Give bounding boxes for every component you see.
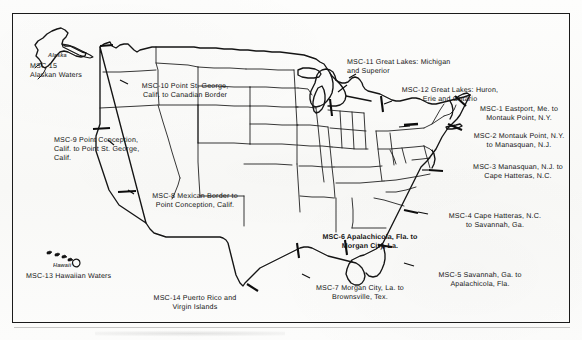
label-msc-7-morgan-city-brownsville: MSC-7 Morgan City, La. to Brownsville, T… <box>296 284 424 302</box>
label-msc-1-eastport-montauk: MSC-1 Eastport, Me. to Montauk Point, N.… <box>460 105 578 123</box>
label-msc-15-alaskan-waters: MSC-15 Alaskan Waters <box>30 62 82 80</box>
hawaii-inset-label: Hawaii <box>53 262 71 268</box>
label-msc-4-hatteras-savannah: MSC-4 Cape Hatteras, N.C. to Savannah, G… <box>432 212 558 230</box>
label-msc-10-point-st-george-canadian-border: MSC-10 Point St. George, Calif. to Canad… <box>115 82 255 100</box>
label-msc-5-savannah-apalachicola: MSC-5 Savannah, Ga. to Apalachicola, Fla… <box>424 271 536 289</box>
label-msc-12-great-lakes-huron-erie-ontario: MSC-12 Great Lakes: Huron, Erie and Onta… <box>382 86 518 104</box>
label-msc-8-mexican-border-point-conception: MSC-8 Mexican Border to Point Conception… <box>125 192 265 210</box>
alaska-inset-label: Alaska <box>48 52 67 58</box>
figure-border-shadow <box>14 327 570 328</box>
label-msc-3-manasquan-hatteras: MSC-3 Manasquan, N.J. to Cape Hatteras, … <box>458 163 578 181</box>
label-msc-6-apalachicola-morgan-city: MSC-6 Apalachicola, Fla. to Morgan City,… <box>300 233 440 251</box>
label-msc-2-montauk-manasquan: MSC-2 Montauk Point, N.Y. to Manasquan, … <box>458 132 580 150</box>
figure-page: Alaska Hawaii MSC-15 Alaskan Waters MSC-… <box>0 0 582 340</box>
label-msc-11-great-lakes-michigan-superior: MSC-11 Great Lakes: Michigan and Superio… <box>347 58 507 76</box>
label-msc-9-point-conception-point-st-george: MSC-9 Point Conception, Calif. to Point … <box>54 136 204 164</box>
label-msc-14-puerto-rico-virgin-islands: MSC-14 Puerto Rico and Virgin Islands <box>130 294 260 312</box>
label-msc-13-hawaiian-waters: MSC-13 Hawaiian Waters <box>26 272 111 281</box>
